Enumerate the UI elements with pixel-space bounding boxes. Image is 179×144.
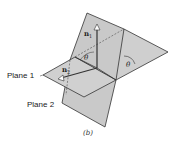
normal-1-subscript: 1 xyxy=(89,33,92,39)
dihedral-angle-diagram: n 1 n 2 θ θ Plane 1 Plane 2 (b) xyxy=(0,0,179,144)
plane-1-leader xyxy=(40,75,43,76)
plane-1-label: Plane 1 xyxy=(7,71,35,80)
figure-caption: (b) xyxy=(83,129,93,137)
plane-2-label: Plane 2 xyxy=(27,100,55,109)
normal-2-subscript: 2 xyxy=(67,69,70,75)
